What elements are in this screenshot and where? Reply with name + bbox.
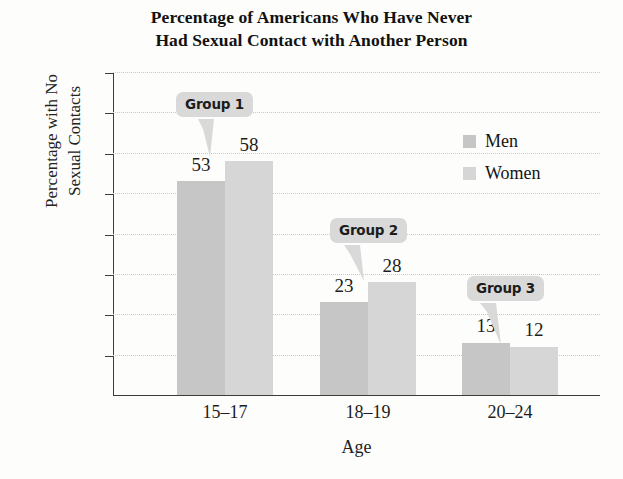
x-axis-spine — [113, 395, 600, 396]
x-tick-label-18-19: 18–19 — [298, 402, 438, 423]
chart-title-line-1: Percentage of Americans Who Have Never — [0, 6, 623, 29]
legend-swatch-men-icon — [463, 135, 476, 148]
callout-group-2-box: Group 2 — [330, 218, 407, 243]
bar-men-15-17 — [177, 181, 225, 395]
legend-item-men: Men — [463, 128, 541, 154]
bar-women-15-17 — [225, 161, 273, 395]
y-tick-50 — [105, 194, 113, 195]
y-axis-title: Percentage with No Sexual Contacts — [40, 16, 86, 266]
callout-group-1-pointer-icon — [190, 119, 226, 159]
y-tick-30 — [105, 275, 113, 276]
chart-title-line-2: Had Sexual Contact with Another Person — [0, 29, 623, 52]
callout-group-2-pointer-icon — [338, 245, 378, 285]
callout-group-3: Group 3 — [467, 276, 544, 301]
y-axis-title-line-2: Sexual Contacts — [63, 16, 86, 266]
y-tick-20 — [105, 315, 113, 316]
y-axis-title-line-1: Percentage with No — [40, 16, 63, 266]
callout-group-3-pointer-icon — [475, 303, 515, 347]
chart-figure: Percentage of Americans Who Have Never H… — [0, 0, 623, 479]
bar-men-20-24 — [462, 343, 510, 396]
callout-group-1-box: Group 1 — [176, 92, 253, 117]
y-tick-10 — [105, 356, 113, 357]
x-axis-title: Age — [113, 437, 600, 458]
y-tick-40 — [105, 235, 113, 236]
callout-group-2: Group 2 — [330, 218, 407, 243]
callout-group-1: Group 1 — [176, 92, 253, 117]
bar-women-20-24 — [510, 347, 558, 396]
chart-title: Percentage of Americans Who Have Never H… — [0, 6, 623, 52]
legend-swatch-women-icon — [463, 167, 476, 180]
legend-item-women: Women — [463, 160, 541, 186]
y-tick-80 — [105, 73, 113, 74]
bar-men-18-19 — [320, 302, 368, 395]
x-tick-label-15-17: 15–17 — [155, 402, 295, 423]
y-tick-60 — [105, 154, 113, 155]
chart-legend: Men Women — [463, 128, 541, 192]
callout-group-3-box: Group 3 — [467, 276, 544, 301]
gridline-80: 80% — [113, 72, 600, 73]
y-tick-70 — [105, 113, 113, 114]
bar-women-18-19 — [368, 282, 416, 395]
bar-value-women-15-17: 58 — [219, 134, 279, 156]
legend-label-men: Men — [485, 131, 518, 152]
x-tick-label-20-24: 20–24 — [440, 402, 580, 423]
legend-label-women: Women — [485, 163, 541, 184]
